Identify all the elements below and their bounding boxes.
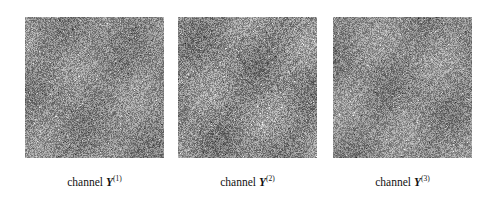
- caption-symbol-2: Y: [256, 176, 266, 188]
- figure-root: channelY(1) channelY(2) channelY(3): [0, 0, 484, 202]
- channel-image-1: [25, 17, 164, 158]
- caption-superscript-3: (3): [421, 174, 430, 183]
- caption-prefix-1: channel: [67, 176, 103, 188]
- channel-caption-3: channelY(3): [333, 170, 472, 188]
- noise-texture-3: [333, 17, 472, 158]
- caption-prefix-2: channel: [220, 176, 256, 188]
- caption-prefix-3: channel: [375, 176, 411, 188]
- channel-image-3: [333, 17, 472, 158]
- caption-symbol-3: Y: [411, 176, 421, 188]
- caption-superscript-1: (1): [113, 174, 122, 183]
- channel-caption-1: channelY(1): [25, 170, 164, 188]
- noise-texture-1: [25, 17, 164, 158]
- noise-texture-2: [178, 17, 317, 158]
- caption-superscript-2: (2): [266, 174, 275, 183]
- channel-image-2: [178, 17, 317, 158]
- channel-caption-2: channelY(2): [178, 170, 317, 188]
- caption-symbol-1: Y: [103, 176, 113, 188]
